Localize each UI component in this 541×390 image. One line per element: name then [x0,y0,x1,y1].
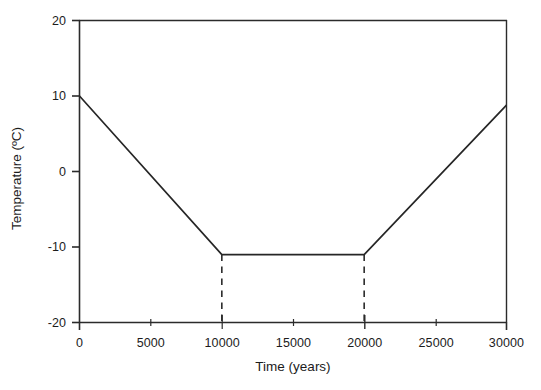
chart-plot-svg [0,0,541,390]
xtick-label-0: 0 [76,336,83,350]
xtick-label-25000: 25000 [419,336,454,350]
ytick-label-10: 10 [40,89,66,103]
temperature-series-line [80,96,507,255]
chart-figure: 20 10 0 -10 -20 0 5000 10000 15000 20000… [0,0,541,390]
ytick-label-0: 0 [40,165,66,179]
xtick-label-30000: 30000 [489,336,524,350]
xtick-label-10000: 10000 [205,336,240,350]
drop-lines [222,255,364,322]
xtick-label-15000: 15000 [276,336,311,350]
y-axis-title: Temperature (ºC) [9,127,24,230]
x-axis-title: Time (years) [255,359,330,374]
ytick-label-neg20: -20 [35,316,66,330]
ytick-label-neg10: -10 [35,240,66,254]
y-tick-marks [72,21,80,323]
xtick-label-20000: 20000 [347,336,382,350]
xtick-label-5000: 5000 [137,336,165,350]
ytick-label-20: 20 [40,14,66,28]
